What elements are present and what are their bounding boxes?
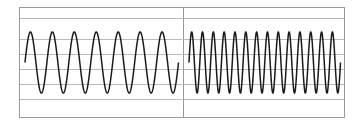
right-waveform-plot <box>184 8 345 117</box>
right-waveform-svg <box>184 8 345 117</box>
figure-canvas <box>0 0 362 127</box>
right-waveform-trace <box>188 32 340 93</box>
left-waveform-plot <box>20 8 183 117</box>
left-waveform-trace <box>25 32 179 93</box>
figure-frame <box>19 7 345 118</box>
right-waveform-panel <box>184 8 345 117</box>
left-waveform-svg <box>20 8 183 117</box>
left-waveform-panel <box>20 8 184 117</box>
